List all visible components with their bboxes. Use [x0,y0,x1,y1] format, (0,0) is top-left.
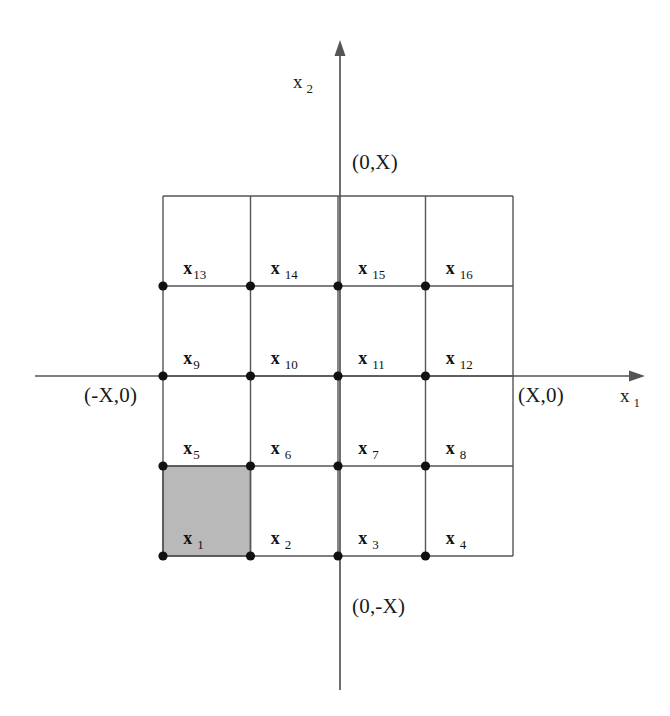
element-subscript: 2 [280,537,292,552]
element-subscript: 11 [367,357,385,372]
axes-group [35,40,645,690]
element-label-16: x16 [446,259,473,281]
mesh-node-dot [333,461,342,470]
element-label-5: x5 [183,439,200,461]
element-subscript: 14 [280,267,298,282]
element-symbol: x [446,528,455,548]
element-label-6: x6 [271,439,292,461]
element-subscript: 9 [192,357,200,372]
element-label-11: x11 [358,349,385,371]
element-symbol: x [358,438,367,458]
element-symbol: x [358,348,367,368]
mesh-node-dot [421,551,430,560]
element-symbol: x [446,438,455,458]
element-symbol: x [358,528,367,548]
finite-element-mesh-figure: x1x2x3x4x5x6x7x8x9x10x11x12x13x14x15x16(… [0,0,670,716]
mesh-node-dot [333,371,342,380]
diagram-geometry [0,0,670,716]
element-subscript: 16 [455,267,473,282]
element-subscript: 15 [367,267,385,282]
element-subscript: 10 [280,357,298,372]
element-label-9: x9 [183,349,200,371]
element-symbol: x [271,348,280,368]
mesh-node-dot [246,371,255,380]
element-subscript: 4 [455,537,467,552]
element-label-14: x14 [271,259,298,281]
mesh-node-dot [158,281,167,290]
coordinate-label-bottom: (0,-X) [352,596,405,617]
element-label-3: x3 [358,529,379,551]
element-label-2: x2 [271,529,292,551]
element-label-7: x7 [358,439,379,461]
axis-subscript: 2 [303,81,314,96]
element-symbol: x [358,258,367,278]
element-label-12: x12 [446,349,473,371]
element-label-10: x10 [271,349,298,371]
element-subscript: 12 [455,357,473,372]
element-symbol: x [446,348,455,368]
mesh-node-dot [158,461,167,470]
element-symbol: x [271,438,280,458]
element-symbol: x [183,528,192,548]
element-subscript: 8 [455,447,467,462]
element-label-8: x8 [446,439,467,461]
mesh-node-dot [421,281,430,290]
element-subscript: 13 [192,267,206,282]
element-label-1: x1 [183,529,204,551]
element-symbol: x [183,438,192,458]
element-subscript: 5 [192,447,200,462]
element-label-13: x13 [183,259,206,281]
mesh-node-dot [158,371,167,380]
axis-symbol: x [293,71,303,92]
element-symbol: x [183,258,192,278]
coordinate-label-right: (X,0) [518,385,564,406]
mesh-node-dot [246,461,255,470]
element-label-4: x4 [446,529,467,551]
vertical-axis-name: x2 [293,72,313,95]
element-subscript: 3 [367,537,379,552]
element-symbol: x [446,258,455,278]
element-subscript: 6 [280,447,292,462]
mesh-node-dot [333,281,342,290]
mesh-node-dot [158,551,167,560]
vertical-axis-arrowhead [335,40,346,56]
mesh-node-dot [421,461,430,470]
axis-subscript: 1 [630,395,641,410]
element-symbol: x [271,258,280,278]
mesh-node-dot [246,551,255,560]
coordinate-label-left: (-X,0) [84,385,137,406]
element-subscript: 7 [367,447,379,462]
horizontal-axis-arrowhead [629,371,645,382]
element-symbol: x [271,528,280,548]
horizontal-axis-name: x1 [620,386,640,409]
axis-symbol: x [620,385,630,406]
shaded-element-cell [163,466,251,556]
mesh-node-dot [246,281,255,290]
coordinate-label-top: (0,X) [352,152,398,173]
element-symbol: x [183,348,192,368]
mesh-node-dot [421,371,430,380]
element-subscript: 1 [192,537,204,552]
element-label-15: x15 [358,259,385,281]
mesh-node-dot [333,551,342,560]
